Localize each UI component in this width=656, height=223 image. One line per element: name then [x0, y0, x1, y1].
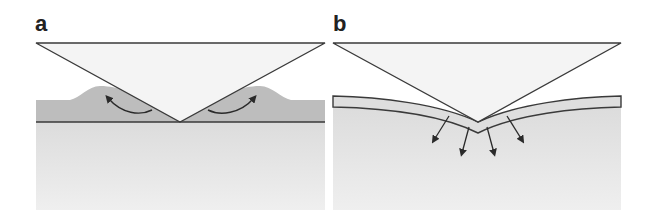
substrate-a: [36, 122, 325, 210]
diagram-canvas: [0, 0, 656, 223]
panel-b: [333, 43, 621, 210]
panel-a: [36, 43, 325, 210]
